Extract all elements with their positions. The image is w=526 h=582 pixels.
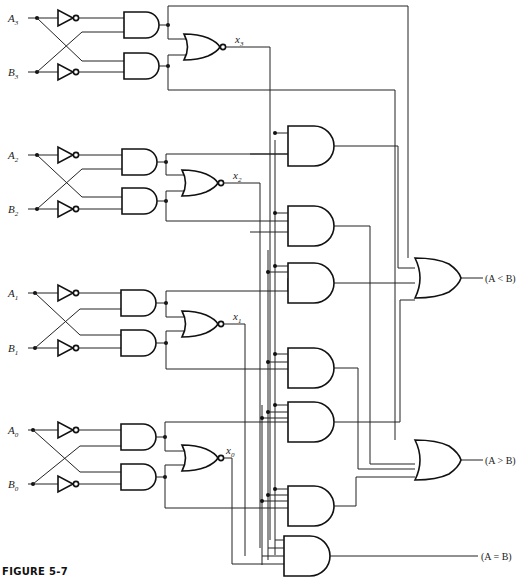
input-label-b0: B0: [8, 478, 19, 493]
not-gate-a2: [58, 147, 79, 163]
bit-stage-1: [28, 278, 288, 556]
and-gate-b1: [121, 330, 156, 356]
not-gate-a0: [58, 422, 79, 438]
nor-gate-x3: [184, 34, 226, 60]
and-gate-b0: [121, 464, 156, 490]
and-gate-gt-1: [288, 348, 334, 388]
output-label-greater: (A > B): [485, 455, 516, 467]
and-gate-a3: [124, 12, 159, 38]
x-labels: x3 x2 x1 x0: [225, 33, 244, 459]
and-gate-gt-2: [288, 206, 334, 246]
and-gate-lt-1: [288, 263, 334, 303]
and-gate-a0: [121, 424, 156, 450]
input-label-b2: B2: [8, 203, 19, 218]
comparator-circuit: A3 B3 A2 B2 A1 B1 A0 B0 x3 x2 x1 x0 (A <…: [0, 0, 526, 582]
not-gate-b3: [58, 64, 79, 80]
output-label-less: (A < B): [485, 273, 516, 285]
and-gate-eq: [284, 536, 330, 576]
not-gate-b0: [58, 476, 79, 492]
nor-gate-x1: [182, 311, 224, 337]
bit-stage-0: [28, 422, 288, 564]
input-label-a0: A0: [7, 424, 19, 439]
and-gate-a2: [122, 149, 157, 175]
input-label-a3: A3: [7, 12, 19, 27]
input-label-b3: B3: [8, 66, 19, 81]
input-labels: A3 B3 A2 B2 A1 B1 A0 B0: [7, 12, 19, 493]
and-gate-gt-0: [288, 486, 334, 526]
or-gate-greater-than: [415, 440, 461, 480]
figure-caption: FIGURE 5-7: [2, 566, 68, 577]
x1-label: x1: [232, 310, 241, 325]
not-gate-a1: [58, 285, 79, 301]
bit-stage-3: [28, 6, 408, 540]
not-gate-b2: [58, 201, 79, 217]
and-gate-lt-0: [288, 402, 334, 442]
x0-label: x0: [225, 444, 235, 459]
input-label-a1: A1: [7, 287, 18, 302]
and-gate-b3: [124, 53, 159, 79]
or-gate-less-than: [415, 258, 461, 298]
not-gate-a3: [58, 10, 79, 26]
x2-label: x2: [232, 169, 242, 184]
nor-gate-x2: [182, 170, 224, 196]
x3-label: x3: [234, 33, 244, 48]
and-gate-b2: [122, 188, 157, 214]
and-gate-lt-2: [288, 126, 334, 166]
output-labels: (A < B) (A > B) (A = B): [481, 273, 516, 563]
and-gate-a1: [121, 290, 156, 316]
input-label-a2: A2: [7, 149, 19, 164]
output-label-equal: (A = B): [481, 551, 512, 563]
nor-gate-x0: [182, 445, 224, 471]
not-gate-b1: [58, 340, 79, 356]
input-label-b1: B1: [8, 342, 18, 357]
